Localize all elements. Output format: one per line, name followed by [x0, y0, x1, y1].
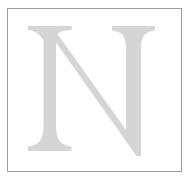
image-canvas: N	[0, 0, 191, 185]
letter-n-icon	[8, 9, 181, 171]
bordered-box: N	[7, 8, 182, 172]
letter-n-container: N	[8, 9, 181, 171]
